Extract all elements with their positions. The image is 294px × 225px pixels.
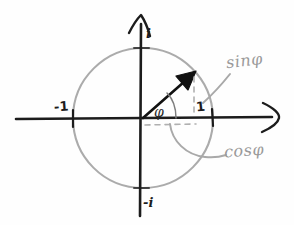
label-real-negative: -1	[54, 100, 69, 114]
label-imaginary-positive: i	[146, 27, 151, 40]
label-cos-phi: cosφ	[223, 142, 264, 161]
label-imaginary-negative: -i	[143, 196, 153, 209]
phasor-vector	[143, 71, 196, 118]
label-angle-phi: φ	[154, 105, 164, 119]
figure-canvas: i -i 1 -1 φ sinφ cosφ	[0, 0, 294, 225]
label-real-positive: 1	[195, 100, 205, 114]
tick-positive-one	[212, 109, 213, 126]
label-sin-phi: sinφ	[225, 51, 264, 71]
cos-leader-line	[170, 124, 226, 157]
